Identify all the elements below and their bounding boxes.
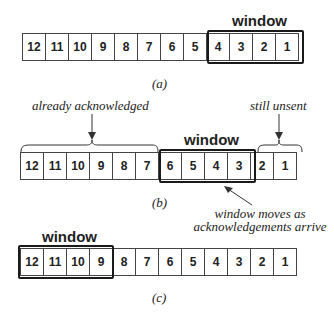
right-brace-icon: [258, 140, 302, 152]
annotation-lines: [0, 0, 334, 322]
left-brace-icon: [21, 140, 158, 152]
arrow-head-icon: [275, 132, 283, 140]
arrow-head-icon: [88, 132, 96, 140]
